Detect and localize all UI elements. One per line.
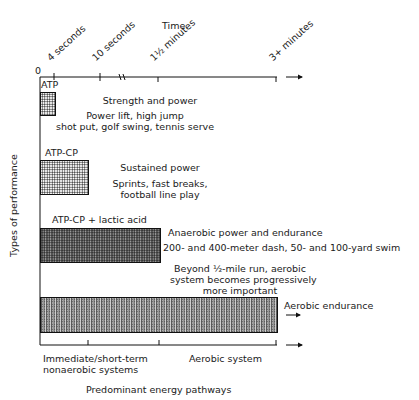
- bottom-axis-title: Predominant energy pathways: [86, 384, 231, 395]
- axes-lines: [0, 0, 419, 400]
- note-aerobic-1: Beyond ½-mile run, aerobic: [170, 263, 310, 274]
- example-atp-2: shot put, golf swing, tennis serve: [55, 121, 215, 132]
- bottom-left-label-1: Immediate/short-term: [43, 353, 148, 364]
- system-label-atp: ATP: [41, 79, 58, 90]
- axis-origin: 0: [35, 65, 41, 76]
- type-strength-power: Strength and power: [80, 95, 220, 106]
- type-sustained-power: Sustained power: [110, 162, 210, 173]
- note-aerobic-2: system becomes progressively: [170, 274, 310, 285]
- note-aerobic-3: more important: [170, 285, 310, 296]
- system-label-lactic: ATP-CP + lactic acid: [52, 214, 147, 225]
- bar-lactic: [40, 228, 161, 263]
- type-anaerobic: Anaerobic power and endurance: [168, 227, 323, 238]
- type-aerobic-endurance: Aerobic endurance: [284, 300, 373, 311]
- bar-aerobic: [40, 297, 278, 333]
- example-atp-cp-1: Sprints, fast breaks,: [110, 178, 210, 189]
- y-axis-label: Types of performance: [8, 151, 19, 261]
- example-lactic: 200- and 400-meter dash, 50- and 100-yar…: [163, 242, 400, 253]
- system-label-atp-cp: ATP-CP: [45, 147, 78, 158]
- example-atp-1: Power lift, high jump: [50, 110, 220, 121]
- bar-atp-cp: [40, 160, 89, 195]
- bottom-right-label: Aerobic system: [189, 353, 262, 364]
- bottom-left-label-2: nonaerobic systems: [43, 364, 138, 375]
- example-atp-cp-2: football line play: [110, 189, 210, 200]
